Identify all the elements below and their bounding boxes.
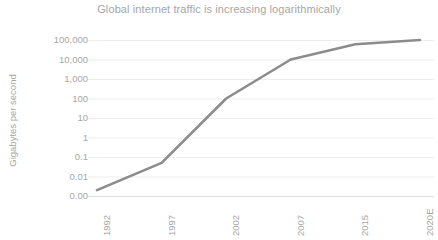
series-line-global-internet-traffic — [97, 40, 420, 190]
chart-container: Global internet traffic is increasing lo… — [0, 0, 438, 240]
gridlines — [88, 41, 434, 178]
plot-area — [0, 0, 438, 240]
